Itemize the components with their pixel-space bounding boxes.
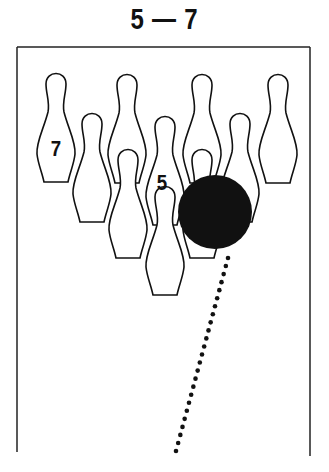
- path-dot: [224, 264, 229, 269]
- path-dot: [176, 441, 181, 446]
- path-dot: [202, 344, 207, 349]
- path-dot: [226, 256, 231, 261]
- path-dot: [174, 449, 179, 454]
- bowling-ball-icon: [178, 175, 252, 249]
- path-dot: [211, 312, 216, 317]
- path-dot: [195, 368, 200, 373]
- path-dot: [193, 376, 198, 381]
- path-dot: [200, 352, 205, 357]
- path-dot: [208, 320, 213, 325]
- ball-path-dots: [174, 256, 231, 454]
- path-dot: [215, 296, 220, 301]
- path-dot: [213, 304, 218, 309]
- pin-4-icon: [73, 114, 111, 223]
- path-dot: [178, 433, 183, 438]
- path-dot: [189, 392, 194, 397]
- path-dot: [217, 288, 222, 293]
- path-dot: [206, 328, 211, 333]
- path-dot: [191, 384, 196, 389]
- path-dot: [185, 408, 190, 413]
- pin-7-icon: [37, 74, 75, 183]
- pin-number-label: 5: [157, 171, 167, 195]
- path-dot: [187, 400, 192, 405]
- path-dot: [180, 425, 185, 430]
- path-dot: [204, 336, 209, 341]
- pin-10-icon: [259, 75, 297, 184]
- path-dot: [219, 280, 224, 285]
- pin-number-label: 7: [51, 137, 61, 161]
- path-dot: [198, 360, 203, 365]
- path-dot: [182, 417, 187, 422]
- lane-diagram: 75: [0, 0, 329, 472]
- path-dot: [221, 272, 226, 277]
